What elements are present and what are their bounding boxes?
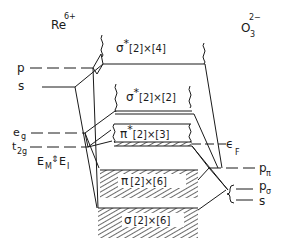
band-diagram: Re 6+ O 3 2− p s e g t 2g E M ⇕ E I	[0, 0, 288, 246]
band-label-pi: π[2]×[6]	[121, 174, 167, 188]
ei-label: E	[59, 155, 66, 168]
band-pi-star: π*[2]×[3]	[113, 123, 192, 146]
band-sigma: σ[2]×[6]	[98, 208, 198, 238]
band-label-sigma-star-mid: σ*[2]×[2]	[126, 86, 176, 104]
band-sigma-star-mid: σ*[2]×[2]	[115, 84, 194, 114]
o3-subscript-label: 3	[250, 30, 255, 39]
level-label-p-sigma-sub: σ	[266, 187, 271, 196]
ei-sub-label: I	[67, 162, 69, 171]
level-label-eg: e	[13, 126, 20, 139]
level-label-t2g-sub: 2g	[17, 147, 27, 156]
band-label-sigma-star-top: σ*[2]×[4]	[116, 37, 166, 55]
band-label-pi-star: π*[2]×[3]	[120, 123, 170, 141]
level-label-s: s	[18, 79, 24, 93]
band-pi: π[2]×[6]	[100, 170, 198, 198]
level-label-p-pi-sub: π	[266, 169, 271, 178]
band-label-sigma: σ[2]×[6]	[124, 213, 170, 227]
level-label-p: p	[17, 61, 25, 75]
fermi-level-label: ϵ	[226, 137, 233, 151]
band-sigma-star-top: σ*[2]×[4]	[101, 35, 205, 64]
level-label-eg-sub: g	[21, 132, 26, 141]
fermi-level-sub: F	[235, 148, 240, 157]
brace-p-sigma-s	[227, 185, 234, 203]
o3-charge-label: 2−	[249, 13, 261, 22]
re-charge-label: 6+	[64, 12, 76, 21]
em-ei-arrows: ⇕	[51, 154, 59, 164]
level-label-s-right: s	[259, 194, 265, 208]
em-label: E	[37, 155, 44, 168]
